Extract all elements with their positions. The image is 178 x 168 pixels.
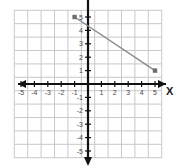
endpoint-marker — [72, 15, 76, 19]
y-tick-label: 3 — [79, 40, 83, 47]
x-tick-label: 4 — [140, 89, 144, 96]
x-tick-label: 2 — [113, 89, 117, 96]
graph-svg: -5-4-3-2-112345 54321-1-2-3-4-5 X — [0, 0, 178, 168]
y-tick-label: 1 — [79, 67, 83, 74]
y-tick-label: -3 — [77, 121, 83, 128]
y-tick-label: 2 — [79, 54, 83, 61]
x-tick-label: -2 — [58, 89, 64, 96]
x-axis-label: X — [166, 85, 174, 97]
y-tick-label: -1 — [77, 94, 83, 101]
coordinate-plane-graph: -5-4-3-2-112345 54321-1-2-3-4-5 X — [0, 0, 178, 168]
x-tick-label: -4 — [31, 89, 37, 96]
y-tick-label: -5 — [77, 148, 83, 155]
x-tick-label: 1 — [99, 89, 103, 96]
x-tick-label: 5 — [153, 89, 157, 96]
x-tick-label: -3 — [45, 89, 51, 96]
y-tick-label: 4 — [79, 27, 83, 34]
y-tick-label: -2 — [77, 107, 83, 114]
y-tick-label: 5 — [79, 14, 83, 21]
y-tick-label: -4 — [77, 134, 83, 141]
x-tick-label: 3 — [126, 89, 130, 96]
x-tick-label: -5 — [18, 89, 24, 96]
endpoint-marker — [153, 68, 157, 72]
